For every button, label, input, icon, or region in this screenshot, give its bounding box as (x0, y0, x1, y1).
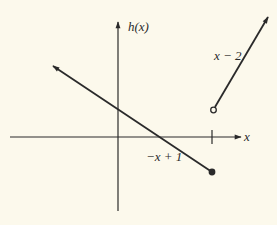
closed-endpoint-dot (209, 169, 216, 176)
open-endpoint-circle (211, 107, 217, 113)
piecewise-graph: h(x) x x − 2 −x + 1 (0, 0, 277, 225)
graph-canvas: h(x) x x − 2 −x + 1 (0, 0, 277, 225)
line-negative-x-plus-1 (53, 66, 212, 172)
y-axis-label: h(x) (128, 19, 149, 34)
series-label-x-minus-2: x − 2 (213, 48, 242, 63)
series-label-negative-x-plus-1: −x + 1 (146, 149, 182, 164)
x-axis-label: x (243, 129, 250, 144)
